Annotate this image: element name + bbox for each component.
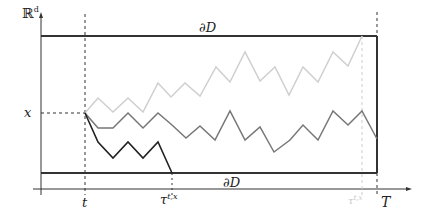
x-level-label: x (24, 106, 31, 119)
x-axis-arrow-icon (406, 187, 412, 191)
tick-tau-light-sup: t,x (354, 194, 363, 202)
path-dark (85, 113, 172, 173)
y-axis-label: ℝd (22, 6, 39, 20)
tick-tau-light-label: τt,x (348, 195, 363, 206)
tick-t-label: t (82, 196, 87, 209)
bottom-boundary-label: ∂D (223, 176, 240, 189)
path-light (85, 36, 362, 113)
path-mid (85, 111, 377, 152)
top-boundary-label: ∂D (199, 21, 216, 34)
tick-tau-label: τt,x (160, 193, 177, 206)
diagram: ℝd x ∂D ∂D t τt,x τt,x T (0, 0, 427, 216)
tick-T-label: T (381, 195, 390, 209)
y-axis-label-text: ℝ (22, 5, 34, 21)
tick-tau-sup: t,x (167, 192, 177, 201)
y-axis-label-sup: d (34, 5, 39, 14)
y-axis-arrow-icon (39, 12, 43, 18)
